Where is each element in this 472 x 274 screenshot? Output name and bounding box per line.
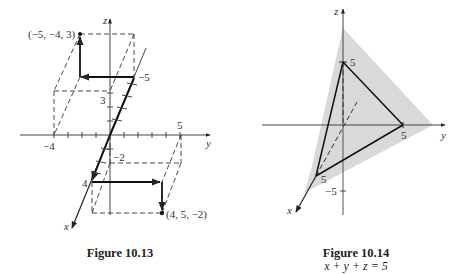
x-axis-heavy-pos: [92, 135, 110, 180]
y-axis-label: y: [205, 137, 211, 149]
tick-label-z-pos: 5: [350, 56, 356, 68]
tick-label-z-neg: −2: [113, 151, 125, 163]
z-axis-label: z: [102, 14, 108, 26]
tick-label-x-pos: 5: [321, 173, 327, 185]
point-a-label: (−5, −4, 3): [28, 28, 76, 41]
y-axis-label: y: [440, 129, 446, 141]
x-axis-label: x: [286, 204, 292, 216]
tick-label-z-neg: −5: [325, 185, 337, 197]
figure-10-13-caption: Figure 10.13: [60, 246, 180, 261]
tick-label-y-pos: 5: [177, 119, 183, 131]
figure-10-13: z y x −4 5 3 −2 4 −5 (−5, −4, 3) (4, 5, …: [20, 14, 211, 232]
x-axis: [296, 176, 316, 212]
tick-label-y-pos: 5: [401, 129, 407, 141]
figure-10-14: z y x 5 5 5 −5: [262, 5, 446, 216]
point-a-dot: [78, 32, 82, 36]
tick-label-y-neg: −4: [43, 140, 55, 152]
plane-region: [304, 28, 433, 193]
x-axis-label: x: [63, 220, 69, 232]
tick-label-x-neg: −5: [138, 71, 150, 83]
tick-label-x-pos: 4: [82, 177, 88, 189]
box-point-a: [54, 34, 134, 135]
point-b-dot: [160, 211, 164, 215]
tick-label-z-pos: 3: [100, 94, 106, 106]
figure-10-14-subcaption: x + y + z = 5: [296, 259, 416, 274]
point-b-label: (4, 5, −2): [166, 208, 207, 221]
x-axis-heavy-neg: [110, 78, 134, 135]
z-axis-label: z: [333, 5, 339, 17]
